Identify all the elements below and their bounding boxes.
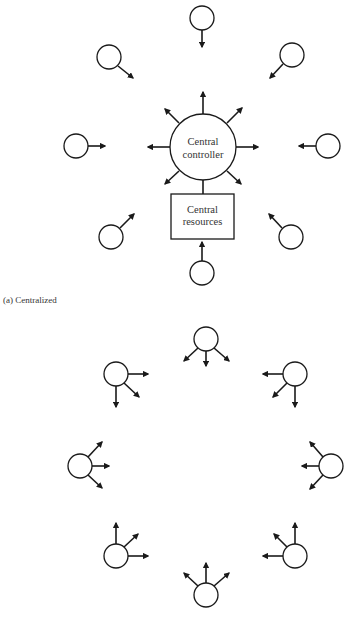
arrow-left <box>88 475 102 488</box>
node-group-upper-left <box>104 362 148 407</box>
arrow-lower-left <box>120 214 134 228</box>
arrow-right <box>310 475 323 489</box>
node-lower-right <box>283 544 307 568</box>
controller-arrow <box>227 171 241 184</box>
node-group-bottom <box>184 563 229 607</box>
controller-arrow <box>165 171 179 184</box>
node-upper-left <box>104 362 128 386</box>
node-lower-left <box>104 544 128 568</box>
node-bottom <box>194 583 218 607</box>
controller-arrow <box>165 109 179 123</box>
distributed-diagram <box>68 327 343 607</box>
controller-label-line1: Central <box>188 136 219 147</box>
network-diagram: Central controller Central resources (a)… <box>0 0 353 618</box>
controller-arrow <box>227 108 242 123</box>
node-top <box>190 6 214 30</box>
arrow-right <box>310 442 323 457</box>
node-right <box>319 454 343 478</box>
arrow-upper-right <box>273 383 287 397</box>
caption-centralized: (a) Centralized <box>3 295 57 305</box>
arrow-upper-left <box>124 383 139 397</box>
resources-label-line2: resources <box>183 216 223 227</box>
arrow-lower-right <box>274 534 287 547</box>
node-group-lower-left <box>104 523 148 568</box>
node-left <box>68 454 92 478</box>
node-lower-left <box>99 225 123 249</box>
node-upper-right <box>280 43 304 67</box>
node-upper-right <box>283 362 307 386</box>
node-left <box>64 134 88 158</box>
node-group-right <box>302 442 343 489</box>
node-upper-left <box>97 45 121 69</box>
centralized-diagram: Central controller Central resources (a)… <box>3 6 340 305</box>
node-lower-right <box>279 225 303 249</box>
node-group-top <box>184 327 229 366</box>
arrow-upper-left <box>118 66 133 78</box>
node-top <box>194 327 218 351</box>
arrow-top <box>214 348 229 361</box>
node-group-left <box>68 442 109 488</box>
node-bottom <box>190 261 214 285</box>
node-group-upper-right <box>263 362 307 407</box>
arrow-bottom <box>214 573 229 586</box>
arrow-lower-left <box>124 534 138 547</box>
arrow-left <box>88 442 102 457</box>
arrow-bottom <box>184 573 198 586</box>
node-group-lower-right <box>263 523 307 568</box>
arrow-top <box>184 348 198 361</box>
arrow-upper-right <box>270 64 283 78</box>
controller-label-line2: controller <box>183 149 224 160</box>
node-right <box>316 134 340 158</box>
resources-label-line1: Central <box>187 204 218 215</box>
arrow-lower-right <box>269 214 282 228</box>
central-controller <box>170 114 236 180</box>
